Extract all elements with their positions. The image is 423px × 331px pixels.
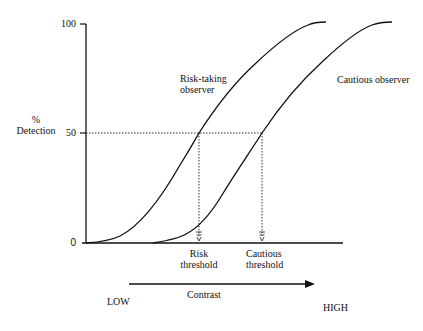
cautious-threshold-label: Cautious threshold [246,248,283,270]
risk-threshold-label: Risk threshold [174,248,224,270]
cautious-threshold-label-line2: threshold [246,259,283,270]
high-label: HIGH [323,302,348,313]
risk-observer-label-line1: Risk-taking [180,73,227,84]
tick-label-0: 0 [50,237,76,248]
low-label: LOW [107,296,130,307]
y-axis-title-symbol: % [12,114,60,125]
contrast-arrowhead-icon [305,280,315,288]
cautious-observer-label: Cautious observer [337,74,410,85]
tick-label-50: 50 [50,127,76,138]
risk-threshold-label-line2: threshold [174,259,224,270]
detection-chart [0,0,423,331]
contrast-label: Contrast [187,289,221,300]
tick-label-100: 100 [50,18,76,29]
risk-observer-label: Risk-taking observer [180,73,227,95]
cautious-threshold-label-line1: Cautious [246,248,283,259]
risk-threshold-label-line1: Risk [174,248,224,259]
risk-observer-label-line2: observer [180,84,227,95]
